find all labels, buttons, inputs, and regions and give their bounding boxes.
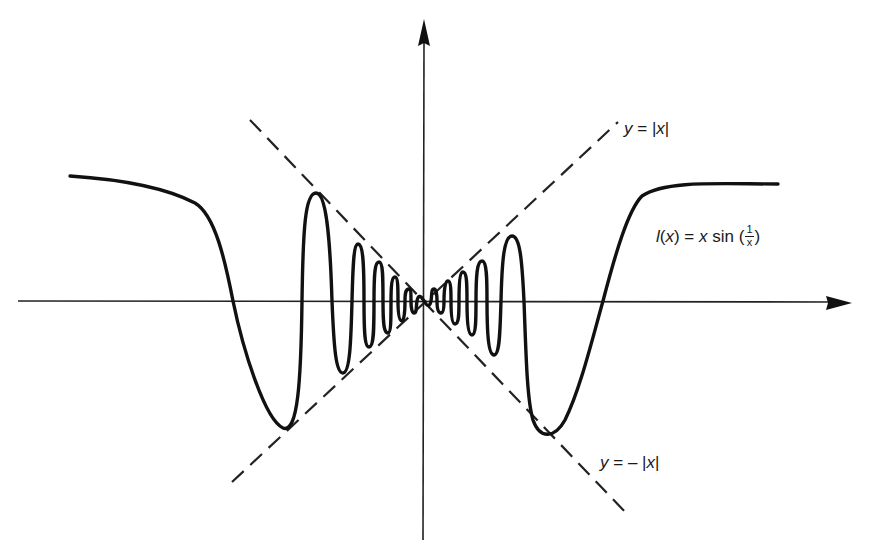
label-function: l(x) = x sin (1x) [656,225,760,249]
label-upper-bound-y: y [624,119,633,138]
label-upper-bound: y = |x| [624,120,669,137]
diagram-canvas: y = |x| l(x) = x sin (1x) y = – |x| [0,0,870,556]
bound-line-lower [250,120,628,515]
function-plot [0,0,870,556]
x-axis-arrow-icon [826,296,852,310]
fraction: 1x [745,224,753,248]
y-axis-arrow-icon [418,19,430,46]
x-axis [18,296,852,310]
label-lower-bound: y = – |x| [600,454,659,471]
label-lower-bound-y: y [600,453,609,472]
y-axis [418,19,430,540]
